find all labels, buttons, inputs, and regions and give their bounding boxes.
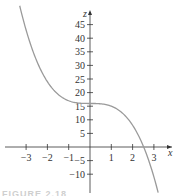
z-axis-label: z [82, 8, 87, 19]
chart: xz−3−2−1123−10−551015202530354045 [0, 0, 177, 196]
z-axis-arrow-icon [88, 10, 92, 15]
z-tick-label: 45 [75, 19, 85, 30]
z-tick-label: 35 [75, 46, 85, 57]
function-curve [20, 6, 158, 193]
z-tick-label: 5 [80, 128, 85, 139]
z-tick-label: −10 [69, 169, 85, 180]
z-tick-label: −5 [74, 155, 85, 166]
x-tick-label: −1 [63, 152, 74, 163]
x-tick-label: −3 [21, 152, 32, 163]
x-axis-label: x [167, 147, 173, 158]
x-tick-label: 3 [151, 152, 156, 163]
figure-caption: FIGURE 2.18 [2, 189, 67, 196]
z-tick-label: 10 [75, 114, 85, 125]
z-tick-label: 25 [75, 74, 85, 85]
z-tick-label: 30 [75, 60, 85, 71]
x-tick-label: 2 [130, 152, 135, 163]
z-tick-label: 40 [75, 33, 85, 44]
axes: xz−3−2−1123−10−551015202530354045 [5, 8, 173, 193]
z-tick-label: 20 [75, 87, 85, 98]
x-tick-label: −2 [42, 152, 53, 163]
x-tick-label: 1 [109, 152, 114, 163]
